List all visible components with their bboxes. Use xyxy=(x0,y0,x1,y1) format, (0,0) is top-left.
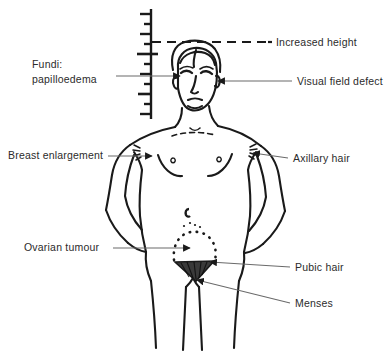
label-visual-field-defect: Visual field defect xyxy=(297,75,383,88)
label-fundi-papilloedema: Fundi: papilloedema xyxy=(32,57,97,87)
label-increased-height: Increased height xyxy=(276,36,357,49)
ovarian-tumour-dotted-outline xyxy=(174,232,216,260)
abdominal-midline-dots xyxy=(183,222,201,228)
leader-menses xyxy=(197,280,290,303)
leader-pubic xyxy=(210,262,290,267)
height-measuring-ruler xyxy=(137,9,158,119)
label-ovarian-tumour: Ovarian tumour xyxy=(24,241,99,254)
label-axillary-hair: Axillary hair xyxy=(293,152,350,165)
label-breast-enlargement: Breast enlargement xyxy=(8,149,103,162)
pubic-hair-triangle xyxy=(175,261,214,281)
label-fundi-line2: papilloedema xyxy=(32,72,97,87)
navel xyxy=(186,209,190,217)
label-pubic-hair: Pubic hair xyxy=(295,261,344,274)
label-menses: Menses xyxy=(295,297,333,310)
body-outline xyxy=(106,41,285,350)
nipples xyxy=(171,157,221,163)
clinical-illustration: Fundi: papilloedema Increased height Vis… xyxy=(0,0,384,361)
axillary-hair-tufts xyxy=(133,144,257,160)
label-fundi-line1: Fundi: xyxy=(32,57,97,72)
